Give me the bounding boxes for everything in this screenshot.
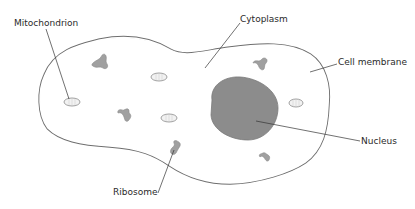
animal-cell-diagram: Mitochondrion Cytoplasm Cell membrane Nu… bbox=[0, 0, 415, 209]
label-nucleus: Nucleus bbox=[361, 137, 397, 146]
label-ribosome: Ribosome bbox=[113, 188, 157, 197]
label-cell-membrane: Cell membrane bbox=[338, 58, 407, 67]
label-cytoplasm: Cytoplasm bbox=[240, 15, 288, 24]
label-mitochondrion: Mitochondrion bbox=[14, 19, 78, 28]
cell-membrane bbox=[40, 38, 328, 183]
